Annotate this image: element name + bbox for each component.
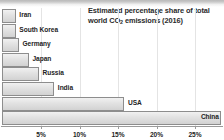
bar-label-usa: USA: [128, 99, 142, 106]
bar-row: Japan: [0, 53, 224, 67]
bar-row: Germany: [0, 38, 224, 52]
plot-area: IranSouth KoreaGermanyJapanRussiaIndiaUS…: [0, 8, 224, 130]
bar-row: Russia: [0, 67, 224, 81]
tick-10: [80, 126, 81, 129]
tick-label-20: 20%: [150, 131, 163, 138]
bar-germany: [2, 38, 19, 52]
bar-china: [2, 111, 221, 125]
bar-row: India: [0, 82, 224, 96]
tick-label-10: 10%: [73, 131, 86, 138]
tick-15: [118, 126, 119, 129]
tick-20: [157, 126, 158, 129]
tick-label-5: 5%: [36, 131, 46, 138]
bar-label-germany: Germany: [22, 40, 50, 47]
bar-usa: [2, 97, 124, 111]
tick-label-25: 25%: [188, 131, 201, 138]
tick-label-15: 15%: [111, 131, 124, 138]
bar-row: China: [0, 111, 224, 125]
bar-label-south-korea: South Korea: [19, 26, 58, 33]
bar-label-china: China: [201, 113, 219, 120]
bar-south-korea: [2, 24, 16, 38]
bar-label-india: India: [58, 84, 73, 91]
bar-row: Iran: [0, 9, 224, 23]
x-axis-line: [1, 126, 223, 127]
bar-row: South Korea: [0, 24, 224, 38]
tick-5: [41, 126, 42, 129]
bar-russia: [2, 67, 39, 81]
bar-label-russia: Russia: [42, 69, 63, 76]
bar-label-japan: Japan: [32, 55, 51, 62]
tick-25: [195, 126, 196, 129]
bar-row: USA: [0, 97, 224, 111]
bar-japan: [2, 53, 29, 67]
bar-india: [2, 82, 54, 96]
bar-iran: [2, 9, 16, 23]
bar-label-iran: Iran: [19, 11, 31, 18]
co2-emissions-bar-chart: Estimated percentage share of total worl…: [0, 0, 224, 140]
